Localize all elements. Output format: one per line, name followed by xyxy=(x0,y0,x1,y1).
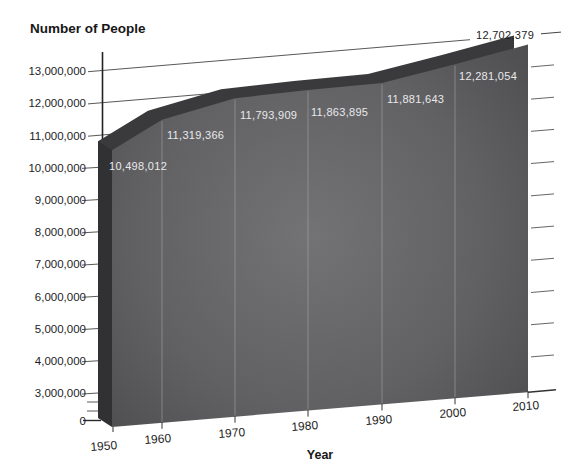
right-tick-4000000 xyxy=(531,323,554,325)
y-tick-label: 7,000,000 xyxy=(35,258,86,270)
y-tick-label: 8,000,000 xyxy=(35,226,86,238)
data-label-1990: 11,881,643 xyxy=(387,93,444,105)
chart-title: Number of People xyxy=(30,21,146,36)
data-label-1970: 11,793,909 xyxy=(240,109,297,121)
y-tick-label: 11,000,000 xyxy=(29,130,86,142)
data-label-2010: 12,702,379 xyxy=(476,29,534,41)
chart-figure: Number of People 13,000,000 12,000,000 1… xyxy=(0,0,585,474)
right-tick-3000000 xyxy=(531,355,554,357)
y-tick-label: 0 xyxy=(80,415,86,427)
right-tick-7000000 xyxy=(531,226,554,228)
x-axis-title: Year xyxy=(307,448,334,462)
x-tick-label: 1990 xyxy=(365,412,393,428)
y-tick-label: 3,000,000 xyxy=(35,387,86,399)
x-axis-right-extension xyxy=(528,390,556,392)
x-tick-label: 1960 xyxy=(144,431,172,447)
y-tick-label: 10,000,000 xyxy=(28,162,86,174)
data-label-1960: 11,319,366 xyxy=(167,129,224,141)
x-tick-label: 2000 xyxy=(439,405,467,421)
y-tick-label: 12,000,000 xyxy=(28,97,86,109)
data-label-1980: 11,863,895 xyxy=(311,106,368,118)
right-tick-13000000 xyxy=(541,32,561,34)
x-tick-label: 1970 xyxy=(218,425,246,441)
population-area-chart: Number of People 13,000,000 12,000,000 1… xyxy=(0,0,585,474)
x-tick-label: 1980 xyxy=(291,418,319,434)
data-label-2000: 12,281,054 xyxy=(459,70,517,82)
y-tick-label: 4,000,000 xyxy=(35,355,86,367)
data-label-1950: 10,498,012 xyxy=(109,160,167,172)
right-tick-5000000 xyxy=(531,291,554,293)
x-tick-label: 1950 xyxy=(90,438,118,454)
area-series xyxy=(98,36,528,428)
y-tick-label: 13,000,000 xyxy=(28,65,86,77)
y-tick-label: 9,000,000 xyxy=(35,194,86,206)
area-left-bevel xyxy=(98,141,112,427)
right-tick-9000000 xyxy=(531,162,554,164)
right-tick-6000000 xyxy=(531,258,554,260)
x-tick-label: 2010 xyxy=(512,398,540,414)
area-front-face xyxy=(112,45,528,428)
right-tick-8000000 xyxy=(531,194,554,196)
y-tick-label: 5,000,000 xyxy=(35,323,86,335)
y-axis-labels: 13,000,000 12,000,000 11,000,000 10,000,… xyxy=(28,65,86,427)
y-tick-label: 6,000,000 xyxy=(35,291,86,303)
right-tick-10000000 xyxy=(531,129,554,131)
right-tick-11000000 xyxy=(531,97,554,99)
right-tick-12000000 xyxy=(531,65,554,67)
